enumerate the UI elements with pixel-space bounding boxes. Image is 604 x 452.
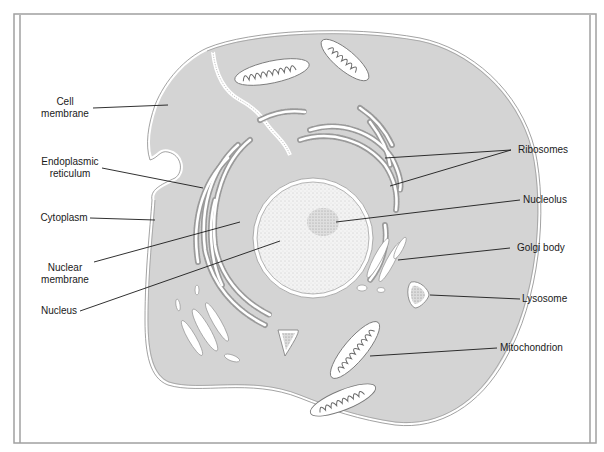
cell-diagram: Cell membrane Endoplasmic reticulum Cyto… bbox=[0, 0, 604, 452]
label-line: Nucleus bbox=[38, 305, 80, 317]
cell-diagram-svg bbox=[0, 0, 604, 452]
label-line: Endoplasmic bbox=[38, 156, 102, 168]
label-line: Golgi body bbox=[517, 242, 565, 254]
label-mitochondrion: Mitochondrion bbox=[500, 342, 563, 354]
label-line: Lysosome bbox=[522, 293, 567, 305]
label-line: Nucleolus bbox=[523, 194, 567, 206]
label-cytoplasm: Cytoplasm bbox=[38, 212, 90, 224]
label-line: Ribosomes bbox=[518, 144, 568, 156]
label-endoplasmic-reticulum: Endoplasmic reticulum bbox=[38, 156, 102, 180]
label-nuclear-membrane: Nuclear membrane bbox=[40, 262, 90, 286]
label-lysosome: Lysosome bbox=[522, 293, 567, 305]
label-line: Nuclear bbox=[40, 262, 90, 274]
label-line: Mitochondrion bbox=[500, 342, 563, 354]
label-cell-membrane: Cell membrane bbox=[40, 96, 90, 120]
label-line: Cell bbox=[40, 96, 90, 108]
nucleus-shape bbox=[253, 178, 373, 298]
label-line: membrane bbox=[40, 108, 90, 120]
nucleolus-shape bbox=[307, 208, 339, 236]
label-line: reticulum bbox=[38, 168, 102, 180]
label-line: Cytoplasm bbox=[38, 212, 90, 224]
label-ribosomes: Ribosomes bbox=[518, 144, 568, 156]
label-nucleus: Nucleus bbox=[38, 305, 80, 317]
label-golgi-body: Golgi body bbox=[517, 242, 565, 254]
label-nucleolus: Nucleolus bbox=[523, 194, 567, 206]
label-line: membrane bbox=[40, 274, 90, 286]
leader-cytoplasm bbox=[90, 218, 155, 220]
